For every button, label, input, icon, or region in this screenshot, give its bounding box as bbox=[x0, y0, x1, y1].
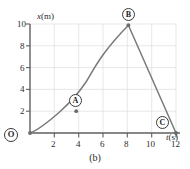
point-label-b: B bbox=[122, 8, 135, 21]
x-tick-label-12: 12 bbox=[171, 140, 180, 149]
figure-caption: (b) bbox=[0, 153, 190, 163]
y-tick-label-4: 4 bbox=[20, 85, 25, 94]
marker-point-o bbox=[28, 131, 32, 135]
y-tick-label-8: 8 bbox=[20, 42, 25, 51]
y-tick-label-6: 6 bbox=[20, 64, 25, 73]
y-tick-label-2: 2 bbox=[20, 107, 25, 116]
point-label-a: A bbox=[69, 94, 82, 107]
x-tick-label-2: 2 bbox=[51, 140, 56, 149]
plot-canvas bbox=[0, 0, 190, 169]
y-axis-title: x(m) bbox=[37, 12, 54, 21]
x-tick-label-10: 10 bbox=[146, 140, 155, 149]
x-tick-label-8: 8 bbox=[124, 140, 129, 149]
marker-point-b bbox=[126, 23, 130, 27]
x-tick-label-4: 4 bbox=[76, 140, 81, 149]
x-tick-label-6: 6 bbox=[100, 140, 105, 149]
marker-point-a bbox=[74, 109, 78, 113]
y-tick-label-10: 10 bbox=[17, 20, 26, 29]
position-time-graph-figure: x(m) t(s) 10 8 6 4 2 2 4 6 8 10 12 O A B… bbox=[0, 0, 190, 169]
y-axis-unit: (m) bbox=[41, 11, 54, 21]
point-label-c: C bbox=[156, 116, 169, 129]
point-label-o: O bbox=[4, 128, 18, 142]
